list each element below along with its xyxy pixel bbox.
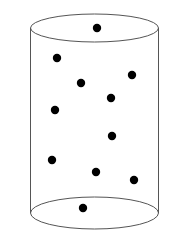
particle-dot — [108, 132, 116, 140]
particle-dots — [48, 24, 138, 212]
particle-dot — [128, 71, 136, 79]
particle-dot — [53, 54, 61, 62]
particle-dot — [77, 79, 85, 87]
particle-dot — [92, 168, 100, 176]
cylinder-bottom-ellipse — [31, 197, 159, 229]
cylinder-diagram — [0, 0, 169, 249]
particle-dot — [93, 24, 101, 32]
particle-dot — [79, 204, 87, 212]
particle-dot — [107, 94, 115, 102]
cylinder-outline — [31, 14, 159, 229]
particle-dot — [51, 106, 59, 114]
particle-dot — [130, 176, 138, 184]
particle-dot — [48, 156, 56, 164]
